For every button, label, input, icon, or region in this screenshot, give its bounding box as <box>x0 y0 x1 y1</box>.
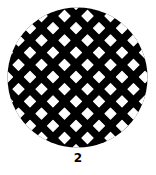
hole <box>117 145 128 150</box>
hole <box>140 120 151 131</box>
hole <box>0 11 1 22</box>
hole <box>128 11 139 22</box>
hole <box>0 35 1 46</box>
figure-label: 2 <box>0 152 156 165</box>
hole <box>140 0 151 9</box>
hole <box>151 108 156 119</box>
hole <box>0 133 1 144</box>
hole <box>25 145 36 150</box>
hole <box>151 133 156 144</box>
hole <box>2 120 13 131</box>
hole <box>140 145 151 150</box>
hole <box>48 145 59 150</box>
hole <box>117 0 128 9</box>
hole <box>0 59 1 70</box>
hole <box>13 133 24 144</box>
perforated-disc-diagram <box>0 0 156 150</box>
hole <box>48 0 59 9</box>
hole <box>128 133 139 144</box>
hole <box>0 84 1 95</box>
hole <box>151 11 156 22</box>
hole <box>0 108 1 119</box>
hole <box>25 0 36 9</box>
hole <box>94 145 105 150</box>
hole <box>2 23 13 34</box>
hole <box>2 145 13 150</box>
hole <box>94 0 105 9</box>
hole <box>2 0 13 9</box>
hole <box>151 59 156 70</box>
hole <box>13 11 24 22</box>
hole <box>151 35 156 46</box>
hole <box>151 84 156 95</box>
hole <box>140 23 151 34</box>
